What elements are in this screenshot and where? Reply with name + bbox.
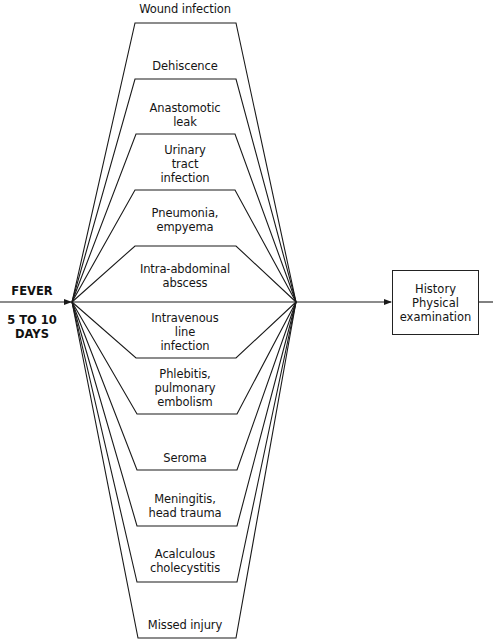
cause-iv-line-infection: Intravenous line infection [110,311,260,353]
cause-anastomotic-leak: Anastomotic leak [110,101,260,129]
cause-phlebitis-pe: Phlebitis, pulmonary embolism [110,367,260,409]
cause-meningitis-head-trauma: Meningitis, head trauma [110,492,260,520]
cause-dehiscence: Dehiscence [110,59,260,73]
cause-seroma: Seroma [110,451,260,465]
cause-wound-infection: Wound infection [110,2,260,16]
cause-urinary-tract-infection: Urinary tract infection [110,143,260,185]
history-physical-exam-box: History Physical examination [392,270,479,335]
cause-acalculous-cholecystitis: Acalculous cholecystitis [110,547,260,575]
cause-missed-injury: Missed injury [110,618,260,632]
cause-pneumonia-empyema: Pneumonia, empyema [110,206,260,234]
duration-label: 5 TO 10 DAYS [0,313,64,341]
cause-intra-abdominal-abscess: Intra-abdominal abscess [110,262,260,290]
fever-label: FEVER [0,284,64,298]
